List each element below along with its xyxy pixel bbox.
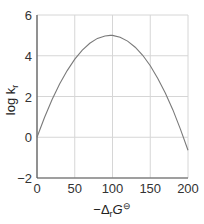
- y-tick-label: 2: [25, 90, 32, 105]
- x-tick-label: 150: [139, 181, 161, 196]
- x-tick-label: 50: [68, 181, 82, 196]
- y-tick-label: 0: [25, 130, 32, 145]
- x-tick-labels: 050100150200: [33, 181, 198, 196]
- x-axis-label: −ΔrG⊖: [93, 201, 130, 219]
- y-tick-label: 6: [25, 8, 32, 23]
- x-tick-label: 100: [102, 181, 124, 196]
- y-tick-label: 4: [25, 49, 32, 64]
- chart: −20246 050100150200 log kr −ΔrG⊖: [0, 0, 204, 224]
- x-tick-label: 0: [33, 181, 40, 196]
- grid-lines: [37, 15, 188, 178]
- x-tick-label: 200: [177, 181, 199, 196]
- y-tick-label: −2: [17, 171, 32, 186]
- y-axis-label: log kr: [3, 85, 20, 115]
- y-tick-labels: −20246: [17, 8, 32, 186]
